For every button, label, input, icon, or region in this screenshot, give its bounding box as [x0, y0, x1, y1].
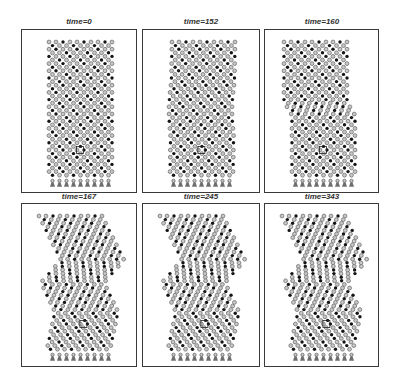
anchor-base [307, 182, 312, 187]
atom-dot [202, 344, 205, 347]
atom-ring [224, 91, 228, 95]
atom-ring [311, 170, 315, 174]
atom-ring [79, 130, 83, 134]
atom-ring [220, 109, 224, 113]
anchor-icon [179, 179, 182, 182]
atom-ring [94, 333, 98, 337]
anchor-icon [107, 353, 110, 356]
atom-dot [340, 250, 343, 253]
atom-dot [193, 174, 196, 177]
atom-ring [89, 69, 93, 73]
atom-ring [218, 319, 222, 323]
atom-ring [107, 87, 111, 91]
atom-dot [296, 84, 299, 87]
atom-ring [74, 254, 78, 258]
atom-ring [58, 137, 62, 141]
anchor-base [213, 356, 218, 361]
atom-ring [195, 254, 199, 258]
atom-dot [309, 333, 312, 336]
atom-dot [208, 294, 211, 297]
atom-ring [184, 69, 188, 73]
atom-ring [111, 250, 115, 254]
atom-ring [75, 62, 79, 66]
atom-dot [56, 330, 59, 333]
atom-ring [297, 148, 301, 152]
atom-ring [301, 137, 305, 141]
atom-ring [206, 232, 210, 236]
atom-dot [79, 123, 82, 126]
anchor-base [213, 182, 218, 187]
atom-ring [70, 218, 74, 222]
atom-ring [308, 123, 312, 127]
atom-ring [315, 123, 319, 127]
atom-ring [199, 109, 203, 113]
atom-ring [82, 112, 86, 116]
atom-ring [47, 69, 51, 73]
atom-dot [345, 261, 348, 264]
atom-ring [223, 326, 227, 330]
atom-ring [186, 145, 190, 149]
atom-ring [64, 232, 68, 236]
atom-dot [68, 163, 71, 166]
atom-dot [310, 48, 313, 51]
atom-dot [70, 348, 73, 351]
atom-dot [103, 148, 106, 151]
atom-dot [342, 94, 345, 97]
atom-dot [204, 148, 207, 151]
atom-dot [82, 265, 85, 268]
atom-dot [290, 141, 293, 144]
atom-ring [293, 44, 297, 48]
atom-ring [106, 297, 110, 301]
atom-dot [44, 283, 47, 286]
atom-ring [171, 123, 175, 127]
lattice-3 [265, 30, 380, 194]
atom-dot [335, 312, 338, 315]
atom-dot [61, 84, 64, 87]
atom-ring [346, 119, 350, 123]
atom-ring [316, 308, 320, 312]
atom-ring [216, 344, 220, 348]
atom-dot [86, 138, 89, 141]
atom-ring [75, 127, 79, 131]
atom-dot [296, 240, 299, 243]
atom-ring [116, 254, 120, 258]
atom-ring [205, 76, 209, 80]
atom-dot [86, 322, 89, 325]
atom-ring [203, 98, 207, 102]
atom-dot [101, 308, 104, 311]
atom-ring [345, 112, 349, 116]
lattice-1 [22, 30, 138, 194]
anchor-icon [86, 353, 89, 356]
atom-ring [89, 290, 93, 294]
atom-dot [311, 272, 314, 275]
atom-ring [303, 62, 307, 66]
atom-ring [197, 83, 201, 87]
atom-ring [68, 155, 72, 159]
atom-ring [183, 279, 187, 283]
atom-ring [319, 236, 323, 240]
atom-dot [212, 348, 215, 351]
atom-ring [348, 329, 352, 333]
atom-dot [47, 141, 50, 144]
atom-ring [333, 319, 337, 323]
atom-dot [331, 91, 334, 94]
atom-dot [215, 315, 218, 318]
atom-ring [335, 94, 339, 98]
atom-dot [190, 222, 193, 225]
atom-ring [310, 40, 314, 44]
atom-dot [72, 44, 75, 47]
atom-dot [169, 222, 172, 225]
atom-ring [54, 170, 58, 174]
atom-dot [315, 152, 318, 155]
atom-ring [79, 73, 83, 77]
atom-ring [219, 62, 223, 66]
atom-dot [54, 91, 57, 94]
atom-dot [351, 229, 354, 232]
atom-ring [198, 40, 202, 44]
atom-ring [69, 279, 73, 283]
atom-ring [219, 347, 223, 351]
atom-ring [314, 51, 318, 55]
atom-ring [168, 148, 172, 152]
atom-ring [72, 123, 76, 127]
atom-ring [47, 105, 51, 109]
